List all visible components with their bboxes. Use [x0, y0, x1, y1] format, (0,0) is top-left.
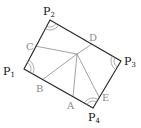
label-B: B	[36, 83, 43, 94]
segment-O-E	[77, 54, 99, 97]
label-P1: P1	[3, 65, 15, 79]
inner-segments	[35, 44, 99, 97]
label-P4: P4	[88, 111, 100, 125]
segment-O-D	[77, 44, 92, 54]
segment-O-B	[42, 54, 77, 80]
label-D: D	[89, 32, 97, 43]
segment-O-A	[73, 54, 77, 97]
label-E: E	[102, 92, 109, 103]
label-A: A	[66, 100, 75, 111]
label-C: C	[26, 41, 34, 52]
label-P3: P3	[124, 55, 136, 69]
segment-O-C	[35, 46, 77, 54]
label-P2: P2	[43, 5, 55, 19]
geometry-diagram: P1 P2 P3 P4 C D B A E	[0, 0, 141, 128]
